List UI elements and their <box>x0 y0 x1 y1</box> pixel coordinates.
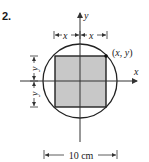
point-label: (x, y) <box>112 47 133 59</box>
problem-number: 2. <box>2 10 11 22</box>
bottom-dimension: 10 cm <box>44 150 117 161</box>
left-bottom-y-label: y <box>29 91 40 97</box>
top-right-x-label: x <box>88 30 94 41</box>
y-axis-label: y <box>83 10 89 21</box>
top-left-x-label: x <box>62 30 68 41</box>
left-top-y-label: y <box>29 66 40 72</box>
diagram-canvas: 2. x y (x, y) x x y <box>0 0 149 162</box>
x-axis-label: x <box>133 66 139 77</box>
diameter-label: 10 cm <box>69 150 94 161</box>
corner-point <box>104 54 108 58</box>
